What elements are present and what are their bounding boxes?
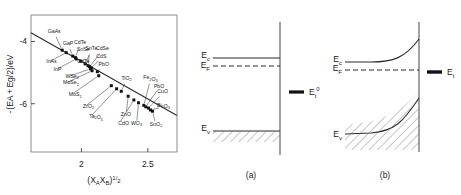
data-marker [144, 105, 147, 108]
data-point-label: InP [54, 66, 62, 72]
band-flat-panel: Ec EF Ev Et0 (a) [185, 0, 323, 195]
data-marker [151, 110, 154, 113]
data-point-label: SnSe [77, 46, 90, 52]
band-bent-panel: Ec EF Ev Et (b) [323, 0, 461, 195]
data-point-label: TiO2 [121, 75, 131, 82]
data-marker [97, 74, 100, 77]
panel-caption-a: (a) [246, 170, 257, 180]
data-marker [137, 101, 140, 104]
data-point-label: CdTe [74, 39, 86, 45]
svg-text:(XAXB)1/2: (XAXB)1/2 [87, 175, 121, 186]
data-point-label: CdTe [77, 58, 89, 64]
x-axis-title: (XAXB)1/2 [87, 175, 121, 186]
x-axis-ticks [81, 148, 147, 152]
data-point-label: GaP [63, 40, 74, 46]
leader-line [70, 49, 72, 54]
data-marker [61, 49, 64, 52]
data-point-label: CdSe [96, 45, 109, 51]
leader-line [93, 61, 98, 66]
data-marker [127, 95, 130, 98]
conduction-band-edge [345, 39, 419, 62]
data-marker [71, 55, 74, 58]
data-point-labels: GaAsInAsGaPCdTeInPCdTeSnTeSnSeCdSeCdSPbO… [46, 28, 170, 128]
leader-line [99, 69, 100, 70]
trap-level-label: Et [447, 67, 455, 79]
valence-band-hatch [345, 90, 419, 152]
data-marker [91, 69, 94, 72]
data-point-label: MoSe2 [63, 79, 79, 86]
x-tick-label: 2 [79, 159, 84, 169]
valence-band-label: Ev [333, 129, 342, 141]
fermi-level-label: EF [201, 60, 211, 72]
y-axis-ticks [31, 41, 35, 103]
data-point-label: PbO [99, 61, 109, 67]
valence-band-label: Ev [201, 123, 210, 135]
y-tick-label: -6 [19, 99, 27, 109]
data-marker [132, 99, 135, 102]
valence-band-hatch [213, 131, 280, 142]
y-axis-tick-labels: -4-6 [19, 36, 27, 108]
data-point-label: Bi2O3 [157, 102, 170, 111]
scatter-panel: 22.5 -4-6 GaAsInAsGaPCdTeInPCdTeSnTeSnSe… [0, 0, 185, 195]
data-marker [120, 90, 123, 93]
leader-line [144, 84, 149, 103]
data-point-label: ZnO [121, 111, 131, 117]
leader-line [92, 90, 115, 114]
svg-text:-(EA+Eg/2)/eV: -(EA+Eg/2)/eV [5, 54, 15, 113]
x-tick-label: 2.5 [142, 159, 154, 169]
y-tick-label: -4 [19, 36, 27, 46]
data-point-label: MoS2 [69, 91, 82, 98]
data-marker [115, 87, 118, 90]
data-point-label: CuO [157, 88, 168, 94]
figure-root: 22.5 -4-6 GaAsInAsGaPCdTeInPCdTeSnTeSnSe… [0, 0, 461, 195]
panel-caption-b: (b) [380, 170, 391, 180]
data-point-label: ZrO2 [83, 103, 94, 110]
data-point-label: CdS [96, 53, 107, 59]
x-axis-tick-labels: 22.5 [79, 159, 154, 169]
data-point-label: InAs [46, 58, 57, 64]
data-point-label: GaAs [48, 28, 61, 34]
data-marker [65, 51, 68, 54]
data-marker [96, 70, 99, 73]
leader-line [153, 108, 159, 110]
leader-line [137, 105, 138, 120]
data-point-label: WO3 [131, 120, 142, 127]
leader-line [56, 37, 61, 48]
data-point-label: CdO [118, 120, 129, 126]
data-point-label: SnO2 [150, 121, 163, 128]
trap-level-label: Et0 [309, 86, 320, 99]
data-point-label: Ta2O5 [89, 113, 103, 122]
y-axis-title: -(EA+Eg/2)/eV [5, 54, 15, 113]
data-marker [110, 84, 113, 87]
